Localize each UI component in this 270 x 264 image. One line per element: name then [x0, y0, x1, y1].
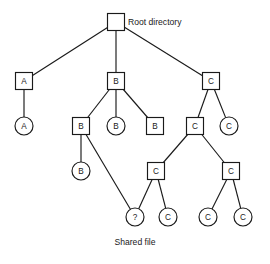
tree-node-c-file2[interactable]: C: [159, 208, 177, 226]
edge-layer: [24, 27, 241, 209]
tree-edge: [139, 180, 152, 209]
node-label: A: [21, 77, 27, 86]
tree-edge: [123, 90, 147, 118]
tree-edge: [233, 180, 241, 209]
tree-node-a-dir[interactable]: A: [16, 73, 33, 90]
tree-node-b-dir[interactable]: B: [108, 73, 125, 90]
directory-square-icon: [108, 14, 125, 31]
tree-node-c-dir2[interactable]: C: [187, 118, 204, 135]
tree-node-c-dir[interactable]: C: [203, 73, 220, 90]
root-directory-caption: Root directory: [128, 17, 182, 27]
tree-edge: [202, 135, 224, 163]
node-label: C: [205, 213, 211, 222]
tree-canvas: ABCABBBCCBCC?CCC Root directory Shared f…: [0, 0, 270, 264]
file-system-tree-diagram: ABCABBBCCBCC?CCC Root directory Shared f…: [0, 0, 270, 264]
tree-node-root[interactable]: [108, 14, 125, 31]
node-layer: ABCABBBCCBCC?CCC: [15, 14, 252, 227]
tree-node-b-file1[interactable]: B: [107, 117, 125, 135]
node-label: B: [113, 122, 119, 131]
tree-edge: [88, 90, 110, 118]
tree-edge: [163, 135, 187, 163]
tree-edge: [212, 180, 227, 209]
node-label: A: [21, 122, 27, 131]
node-label: B: [113, 77, 119, 86]
tree-edge: [86, 135, 130, 210]
tree-node-c-file1[interactable]: C: [220, 117, 238, 135]
node-label: C: [208, 77, 214, 86]
tree-node-b-file2[interactable]: B: [147, 118, 164, 135]
tree-node-shared[interactable]: ?: [126, 208, 144, 226]
node-label: C: [192, 122, 198, 131]
tree-edge: [198, 90, 208, 118]
tree-node-b-dir2[interactable]: B: [73, 118, 90, 135]
tree-edge: [125, 27, 203, 75]
tree-edge: [214, 90, 225, 118]
tree-edge: [158, 180, 166, 209]
node-label: C: [240, 213, 246, 222]
tree-node-c-file3[interactable]: C: [199, 208, 217, 226]
tree-node-c-dir4[interactable]: C: [223, 163, 240, 180]
node-label: C: [165, 213, 171, 222]
tree-edge: [33, 27, 108, 75]
tree-node-c-file4[interactable]: C: [234, 208, 252, 226]
shared-file-caption: Shared file: [114, 237, 155, 247]
tree-node-a-file[interactable]: A: [15, 117, 33, 135]
node-label: C: [228, 167, 234, 176]
node-label: ?: [133, 213, 138, 222]
tree-node-b-file3[interactable]: B: [72, 162, 90, 180]
tree-node-c-dir3[interactable]: C: [148, 163, 165, 180]
node-label: B: [78, 122, 84, 131]
node-label: C: [153, 167, 159, 176]
node-label: C: [226, 122, 232, 131]
node-label: B: [152, 122, 158, 131]
node-label: B: [78, 167, 84, 176]
